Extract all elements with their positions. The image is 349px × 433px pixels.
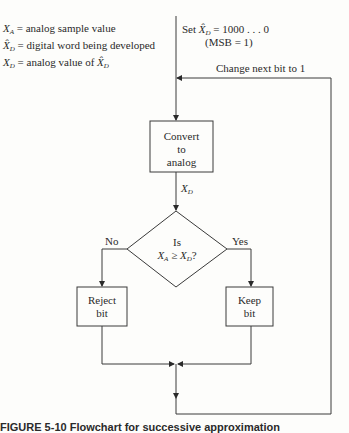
no-branch-label: No <box>105 235 118 248</box>
legend-item-xhat-d: X̂D = digital word being developed <box>3 39 155 56</box>
decision-diamond: Is XA ≥ XD? <box>137 236 217 266</box>
legend-item-xa: XA = analog sample value <box>3 22 155 39</box>
convert-output-label: XD <box>181 182 193 199</box>
keep-merge-arrow <box>178 326 251 364</box>
keep-box: Keep bit <box>226 294 273 320</box>
legend: XA = analog sample value X̂D = digital w… <box>3 22 155 73</box>
reject-box: Reject bit <box>77 294 127 320</box>
convert-box: Convert to analog <box>150 130 213 169</box>
yes-branch-arrow <box>227 249 251 286</box>
no-branch-arrow <box>102 249 127 286</box>
start-msb-note: (MSB = 1) <box>205 36 253 49</box>
figure-caption: FIGURE 5-10 Flowchart for successive app… <box>0 421 280 433</box>
yes-branch-label: Yes <box>232 235 248 248</box>
feedback-label: Change next bit to 1 <box>216 62 305 75</box>
legend-item-xd: XD = analog value of X̂D <box>3 56 155 73</box>
reject-merge-arrow <box>102 326 174 364</box>
